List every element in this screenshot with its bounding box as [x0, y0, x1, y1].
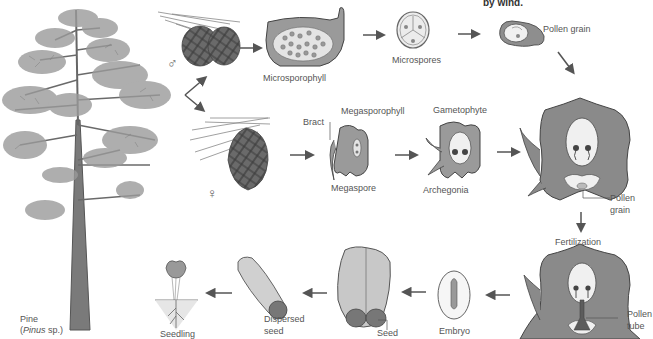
microspores-illustration [397, 12, 429, 48]
arrow-to-male [185, 78, 205, 95]
label-bract: Bract [303, 117, 324, 127]
embryo-illustration [438, 271, 470, 319]
label-microspores: Microspores [392, 55, 441, 65]
ovule-pollination-illustration [520, 98, 630, 200]
pine-life-cycle-illustration [0, 0, 653, 339]
pine-tree-illustration [2, 9, 171, 330]
label-embryo: Embryo [439, 326, 470, 336]
dispersed-seed-illustration [238, 257, 287, 319]
label-pollen-tube: Pollen tube [627, 308, 652, 332]
label-seedling: Seedling [160, 329, 195, 339]
megasporophyll-illustration [330, 125, 368, 180]
fertilization-illustration [520, 244, 640, 339]
pollen-grain-illustration [500, 21, 544, 46]
male-symbol-icon: ♂ [167, 56, 178, 70]
label-seed: Seed [377, 328, 398, 338]
label-fertilization: Fertilization [555, 237, 601, 247]
female-symbol-icon: ♀ [207, 186, 218, 200]
label-pollen-grain: Pollen grain [543, 24, 591, 34]
seed-scale-illustration [338, 247, 391, 327]
female-cone-illustration [190, 118, 270, 190]
label-microsporophyll: Microsporophyll [263, 73, 326, 83]
arrow [558, 52, 573, 72]
gametophyte-illustration [426, 122, 480, 178]
label-gametophyte: Gametophyte [433, 105, 487, 115]
label-archegonia: Archegonia [423, 185, 469, 195]
label-dispersed-seed: Dispersed seed [264, 313, 305, 337]
arrow-to-female [185, 95, 203, 110]
label-megasporophyll: Megasporophyll [341, 106, 405, 116]
seedling-illustration [155, 261, 198, 330]
label-pollen-grain-ovule: Pollen grain [610, 192, 635, 216]
label-megaspore: Megaspore [331, 183, 376, 193]
caption-fragment: by wind. [483, 0, 523, 8]
microsporophyll-illustration [266, 8, 344, 66]
label-pine: Pine (Pinus sp.) [20, 314, 63, 336]
